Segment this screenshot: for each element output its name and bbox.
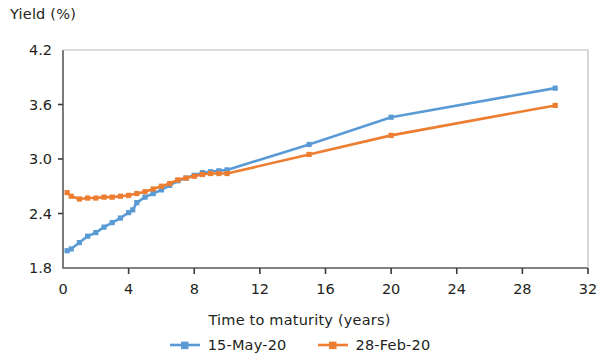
data-point bbox=[85, 234, 90, 239]
data-point bbox=[208, 171, 213, 176]
svg-text:1.8: 1.8 bbox=[29, 260, 52, 276]
legend-swatch-icon bbox=[317, 339, 349, 351]
chart-figure: Yield (%) 1.82.43.03.64.2048121620242832… bbox=[0, 0, 599, 361]
x-axis-title: Time to maturity (years) bbox=[0, 312, 599, 328]
data-point bbox=[553, 86, 558, 91]
plot-area: 1.82.43.03.64.2048121620242832 bbox=[0, 0, 599, 300]
svg-text:0: 0 bbox=[58, 281, 67, 297]
data-point bbox=[553, 103, 558, 108]
data-point bbox=[69, 194, 74, 199]
data-point bbox=[93, 230, 98, 235]
svg-text:28: 28 bbox=[513, 281, 531, 297]
legend-item-1[interactable]: 15-May-20 bbox=[169, 337, 287, 353]
data-point bbox=[130, 207, 135, 212]
data-point bbox=[93, 195, 98, 200]
svg-text:20: 20 bbox=[382, 281, 400, 297]
series-2 bbox=[65, 103, 558, 202]
data-point bbox=[142, 195, 147, 200]
data-point bbox=[134, 200, 139, 205]
legend-label: 28-Feb-20 bbox=[356, 337, 431, 353]
svg-text:2.4: 2.4 bbox=[29, 206, 52, 222]
data-point bbox=[134, 191, 139, 196]
data-point bbox=[306, 152, 311, 157]
data-point bbox=[192, 174, 197, 179]
axis-frame bbox=[63, 50, 588, 268]
svg-text:4: 4 bbox=[124, 281, 133, 297]
data-point bbox=[77, 196, 82, 201]
data-point bbox=[118, 215, 123, 220]
data-point bbox=[183, 175, 188, 180]
data-point bbox=[118, 194, 123, 199]
data-point bbox=[175, 177, 180, 182]
svg-text:3.0: 3.0 bbox=[29, 151, 52, 167]
svg-text:12: 12 bbox=[251, 281, 269, 297]
y-axis-ticks: 1.82.43.03.64.2 bbox=[29, 42, 63, 276]
legend-item-2[interactable]: 28-Feb-20 bbox=[317, 337, 431, 353]
data-point bbox=[151, 186, 156, 191]
legend-label: 15-May-20 bbox=[208, 337, 287, 353]
data-point bbox=[69, 246, 74, 251]
data-point bbox=[101, 195, 106, 200]
svg-text:8: 8 bbox=[190, 281, 199, 297]
data-point bbox=[151, 191, 156, 196]
data-point bbox=[167, 181, 172, 186]
legend-swatch-icon bbox=[169, 339, 201, 351]
data-point bbox=[85, 195, 90, 200]
x-axis-ticks: 048121620242832 bbox=[58, 268, 597, 297]
data-point bbox=[126, 193, 131, 198]
data-point bbox=[110, 195, 115, 200]
data-point bbox=[389, 115, 394, 120]
data-point bbox=[159, 184, 164, 189]
chart-legend: 15-May-2028-Feb-20 bbox=[0, 337, 599, 353]
data-point bbox=[142, 189, 147, 194]
svg-text:3.6: 3.6 bbox=[29, 97, 52, 113]
data-point bbox=[389, 133, 394, 138]
data-point bbox=[77, 240, 82, 245]
data-point bbox=[110, 220, 115, 225]
svg-text:32: 32 bbox=[579, 281, 597, 297]
svg-text:16: 16 bbox=[316, 281, 334, 297]
series-1 bbox=[65, 86, 558, 254]
data-point bbox=[101, 225, 106, 230]
data-point bbox=[224, 171, 229, 176]
svg-text:24: 24 bbox=[448, 281, 466, 297]
svg-text:4.2: 4.2 bbox=[29, 42, 52, 58]
data-point bbox=[306, 142, 311, 147]
data-point bbox=[216, 171, 221, 176]
data-point bbox=[200, 172, 205, 177]
